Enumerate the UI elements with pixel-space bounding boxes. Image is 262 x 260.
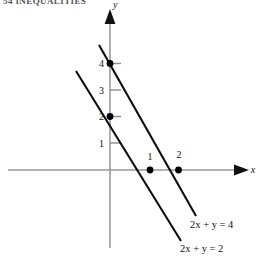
x-tick-label-1: 1 bbox=[148, 151, 153, 162]
y-axis-tick-labels: 4 3 2 1 bbox=[99, 58, 104, 149]
x-tick-label-2: 2 bbox=[177, 149, 182, 160]
y-axis-arrowhead bbox=[105, 9, 116, 24]
equation-label-upper-line: 2x + y = 4 bbox=[190, 219, 234, 230]
point-0-2 bbox=[107, 113, 114, 120]
x-axis-label: x bbox=[250, 164, 256, 175]
point-0-4 bbox=[107, 60, 114, 67]
x-axis-arrowhead bbox=[234, 165, 249, 176]
y-tick-label-4: 4 bbox=[99, 58, 104, 69]
equation-label-lower-line: 2x + y = 2 bbox=[180, 243, 223, 254]
point-1-0 bbox=[147, 167, 154, 174]
y-tick-label-3: 3 bbox=[99, 85, 104, 96]
coordinate-plane-figure: x y 4 3 2 1 1 2 bbox=[0, 0, 262, 260]
figure-page: 54 INEQUALITIES x y 4 3 2 1 bbox=[0, 0, 262, 260]
y-tick-label-1: 1 bbox=[99, 138, 104, 149]
y-axis-label: y bbox=[112, 0, 118, 10]
point-2-0 bbox=[175, 167, 182, 174]
axes-group bbox=[8, 9, 249, 248]
